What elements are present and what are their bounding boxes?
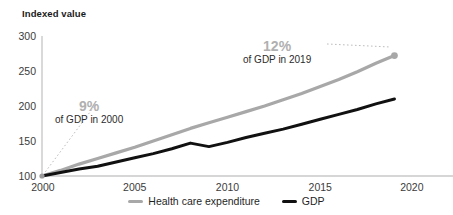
annotation-left: 9% of GDP in 2000 — [55, 98, 123, 126]
legend-swatch-icon — [282, 200, 297, 204]
series-end-marker — [391, 52, 398, 59]
legend-label: Health care expenditure — [148, 196, 260, 207]
legend-item[interactable]: Health care expenditure — [128, 196, 260, 207]
annotation-right-percent: 12% — [243, 38, 311, 54]
annotation-right: 12% of GDP in 2019 — [243, 38, 311, 66]
chart-legend: Health care expenditureGDP — [0, 196, 453, 207]
chart-container: Indexed value 100150200250300 2000200520… — [0, 0, 453, 215]
annotation-left-percent: 9% — [55, 98, 123, 114]
annotation-left-caption: of GDP in 2000 — [55, 114, 123, 126]
series-start-marker — [39, 173, 44, 178]
legend-item[interactable]: GDP — [282, 196, 325, 207]
annotation-right-leader — [327, 44, 390, 47]
legend-swatch-icon — [128, 200, 143, 204]
annotation-right-caption: of GDP in 2019 — [243, 54, 311, 66]
legend-label: GDP — [302, 196, 325, 207]
